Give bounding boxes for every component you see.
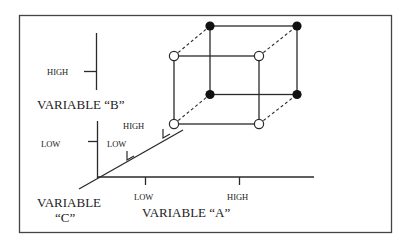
axis-c-low-label: LOW bbox=[107, 139, 126, 149]
axis-b-lower bbox=[88, 121, 98, 178]
design-point-open bbox=[254, 119, 263, 128]
cube-depth-edges bbox=[174, 26, 297, 124]
axis-b-upper bbox=[84, 33, 97, 90]
design-point-filled bbox=[205, 21, 214, 30]
axis-b-low-label: LOW bbox=[41, 139, 60, 149]
axis-c-high-tick bbox=[163, 129, 170, 138]
design-point-filled bbox=[292, 90, 301, 99]
axis-b-high-label: HIGH bbox=[47, 67, 68, 77]
design-point-filled bbox=[292, 21, 301, 30]
design-point-open bbox=[254, 51, 263, 60]
factorial-cube-diagram: HIGH VARIABLE “B” LOW LOW HIGH VARIABLE … bbox=[0, 0, 408, 249]
design-point-filled bbox=[205, 90, 214, 99]
axis-c-title-line2: “C” bbox=[55, 210, 75, 225]
axis-a-high-label: HIGH bbox=[227, 192, 248, 202]
cube-back-face bbox=[210, 26, 297, 95]
axis-a-low-label: LOW bbox=[134, 192, 153, 202]
cube-front-face bbox=[174, 56, 259, 124]
axis-b-title: VARIABLE “B” bbox=[37, 97, 125, 112]
design-point-open bbox=[169, 51, 178, 60]
design-cube bbox=[169, 21, 301, 128]
design-point-open bbox=[169, 119, 178, 128]
axis-c bbox=[79, 129, 183, 189]
axis-a-title: VARIABLE “A” bbox=[142, 205, 230, 220]
axis-a bbox=[97, 177, 314, 185]
axis-c-title-line1: VARIABLE bbox=[37, 195, 101, 210]
axis-c-high-label: HIGH bbox=[123, 121, 144, 131]
